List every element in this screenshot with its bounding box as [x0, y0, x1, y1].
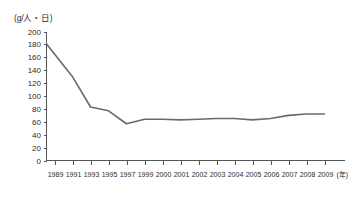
y-axis-tick-labels: 020406080100120140160180200 [28, 28, 42, 166]
line-chart: (g/人・日) 020406080100120140160180200 1989… [0, 0, 359, 198]
y-tick-label: 60 [32, 118, 41, 127]
x-tick-label: 2002 [192, 171, 208, 178]
y-tick-label: 140 [28, 66, 42, 75]
chart-plot-area: 020406080100120140160180200 198919911993… [0, 0, 359, 198]
y-tick-label: 40 [32, 131, 41, 140]
x-tick-label: 1995 [102, 171, 118, 178]
x-tick-label: 2009 [318, 171, 334, 178]
y-tick-label: 20 [32, 144, 41, 153]
y-tick-label: 200 [28, 28, 42, 37]
x-tick-label: 2005 [246, 171, 262, 178]
y-tick-label: 100 [28, 92, 42, 101]
y-tick-label: 0 [37, 157, 42, 166]
x-tick-label: 2006 [264, 171, 280, 178]
x-tick-label: 1997 [120, 171, 136, 178]
x-tick-label: 1991 [66, 171, 82, 178]
x-tick-label: 1993 [84, 171, 100, 178]
y-tick-label: 180 [28, 40, 42, 49]
y-tick-label: 120 [28, 79, 42, 88]
x-tick-label: 2008 [300, 171, 316, 178]
x-tick-label: 1999 [138, 171, 154, 178]
x-axis-tick-labels: 1989199119931995199719992000200120022003… [48, 171, 334, 178]
x-tick-label: 1989 [48, 171, 64, 178]
x-tick-label: 2007 [282, 171, 298, 178]
x-tick-label: 2004 [228, 171, 244, 178]
x-tick-label: 2001 [174, 171, 190, 178]
x-tick-label: 2003 [210, 171, 226, 178]
x-tick-label: 2000 [156, 171, 172, 178]
data-series-line [47, 44, 325, 123]
x-axis-unit-label: (年) [337, 170, 349, 179]
x-axis-tick-marks [56, 161, 326, 165]
y-tick-label: 160 [28, 53, 42, 62]
y-tick-label: 80 [32, 105, 41, 114]
